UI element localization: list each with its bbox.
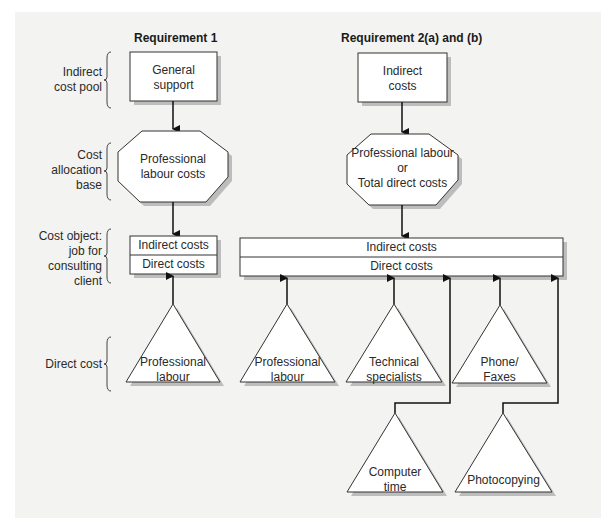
row-label-direct-cost: Direct cost (20, 357, 102, 372)
text-line: Professional labour (345, 146, 460, 161)
req2-object-indirect-costs: Indirect costs (240, 240, 563, 255)
text-line: Professional (240, 355, 335, 370)
text-line: Technical (346, 355, 442, 370)
header-requirement-2: Requirement 2(a) and (b) (341, 31, 482, 45)
text-line: Indirect (358, 64, 447, 79)
req1-cost-pool-text: General support (130, 63, 217, 93)
label-line: Indirect (20, 65, 102, 80)
label-line: client (20, 274, 102, 289)
label-line: Cost object: (20, 229, 102, 244)
req1-direct-professional-labour-label: Professional labour (126, 355, 220, 385)
text-line: support (130, 78, 217, 93)
label-line: base (20, 178, 102, 193)
text-line: Phone/ (452, 355, 547, 370)
text-line: labour (126, 370, 220, 385)
text-line: labour costs (118, 167, 228, 182)
req2-direct-phone-faxes-label: Phone/ Faxes (452, 355, 547, 385)
req2-direct-photocopying-label: Photocopying (455, 473, 552, 488)
req2-allocation-base-text: Professional labour or Total direct cost… (345, 146, 460, 191)
text-line: Professional (118, 152, 228, 167)
label-line: allocation (20, 163, 102, 178)
text-line: or (345, 161, 460, 176)
text-line: labour (240, 370, 335, 385)
text-line: Computer (347, 465, 443, 480)
req2-direct-professional-labour-label: Professional labour (240, 355, 335, 385)
label-line: Direct cost (20, 357, 102, 372)
brace-cost-object (104, 229, 111, 283)
req2-direct-computer-time-label: Computer time (347, 465, 443, 495)
header-requirement-1: Requirement 1 (134, 31, 217, 45)
req2-object-direct-costs: Direct costs (240, 259, 563, 274)
text-line: Faxes (452, 370, 547, 385)
text-line: Professional (126, 355, 220, 370)
req2-cost-pool-text: Indirect costs (358, 64, 447, 94)
text-line: Total direct costs (345, 176, 460, 191)
brace-cost-allocation-base (104, 143, 111, 200)
label-line: cost pool (20, 80, 102, 95)
req1-object-direct-costs: Direct costs (130, 257, 217, 272)
row-label-cost-allocation-base: Cost allocation base (20, 148, 102, 193)
brace-direct-cost (104, 337, 111, 391)
row-label-indirect-cost-pool: Indirect cost pool (20, 65, 102, 95)
req2-direct-technical-specialists-label: Technical specialists (346, 355, 442, 385)
brace-indirect-cost-pool (104, 52, 111, 108)
label-line: consulting (20, 259, 102, 274)
label-line: Cost (20, 148, 102, 163)
label-line: job for (20, 244, 102, 259)
text-line: costs (358, 79, 447, 94)
text-line: General (130, 63, 217, 78)
req1-object-indirect-costs: Indirect costs (130, 238, 217, 253)
req1-allocation-base-text: Professional labour costs (118, 152, 228, 182)
row-label-cost-object: Cost object: job for consulting client (20, 229, 102, 289)
text-line: specialists (346, 370, 442, 385)
text-line: time (347, 480, 443, 495)
text-line: Photocopying (455, 473, 552, 488)
